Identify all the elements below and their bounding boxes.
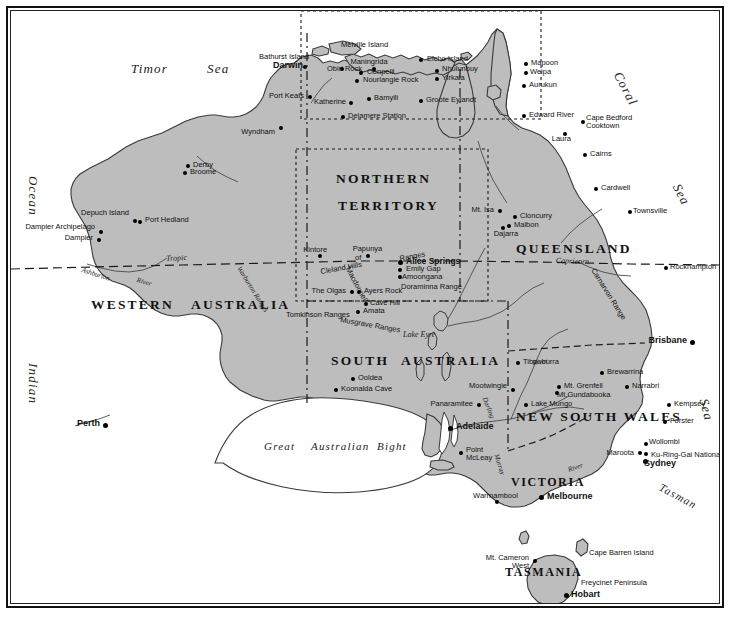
city-dot-nhulunbuy — [435, 69, 439, 73]
city-label-kintore: Kintore — [303, 246, 327, 254]
city-label-perth: Perth — [77, 419, 100, 427]
city-dot-papunya — [366, 254, 370, 258]
island-label-melville: Melville Island — [341, 41, 388, 49]
city-label-nhulunbuy: Nhulunbuy — [442, 65, 478, 73]
city-dot-nourlangie-rock — [355, 79, 359, 83]
city-dot-mt-grenfell — [557, 385, 561, 389]
city-dot-forster — [663, 420, 667, 424]
city-dot-cloncurry — [513, 215, 517, 219]
city-dot-brisbane — [690, 340, 695, 345]
city-dot-perth — [103, 423, 108, 428]
feature-label-great: Great — [264, 440, 295, 452]
city-label-brisbane: Brisbane — [648, 336, 687, 344]
island-label-depuch: Depuch Island — [81, 209, 129, 217]
city-label-bamyili: Bamyili — [374, 94, 398, 102]
city-dot-kintore — [318, 254, 322, 258]
ocean-label-indian: Indian — [25, 363, 41, 404]
island-label-cape-barren: Cape Barren Island — [589, 549, 654, 557]
city-label-adelaide: Adelaide — [456, 422, 494, 430]
city-dot-weipa — [524, 71, 528, 75]
city-label-yirkala: Yirkala — [442, 74, 465, 82]
city-dot-malbon — [507, 224, 511, 228]
city-label-dajarra: Dajarra — [494, 230, 519, 238]
city-dot-port-hedland — [138, 220, 142, 224]
state-label-northern: NORTHERN — [336, 171, 431, 187]
city-label-the-olgas: The Olgas — [311, 287, 346, 295]
city-label-katherine: Katherine — [314, 98, 346, 106]
city-label-brewarrina: Brewarrina — [607, 368, 643, 376]
city-dot-darwin — [303, 65, 307, 69]
state-label-victoria: VICTORIA — [511, 475, 585, 490]
state-label-south: SOUTH — [331, 353, 389, 369]
feature-label-lake-eyre: Lake Eyre — [403, 330, 435, 339]
ocean-label-indian-ocean: Ocean — [25, 176, 41, 216]
city-label-ooldea: Ooldea — [358, 374, 382, 382]
feature-label-tropic: Tropic — [166, 253, 187, 263]
city-label-panaramitee: Panaramitee — [430, 400, 473, 408]
city-dot-panaramitee — [477, 403, 481, 407]
city-label-narrabri: Narrabri — [632, 382, 659, 390]
city-label-mapoon: Mapoon — [531, 59, 558, 67]
city-dot-groote-eylandt — [419, 99, 423, 103]
map-canvas: Timor Sea Ocean Indian Coral Sea Sea Tas… — [11, 11, 719, 603]
city-label-hobart: Hobart — [571, 590, 600, 598]
ocean-label-timor: Timor — [131, 61, 168, 77]
city-dot-townsville — [628, 210, 632, 214]
city-label-mootwingie: Mootwingie — [469, 382, 507, 390]
city-dot-kempsey — [667, 403, 671, 407]
city-label-mt-gundabooka: Mt.Gundabooka — [557, 391, 610, 399]
city-dot-delamere-station — [341, 115, 345, 119]
city-dot-brewarrina — [600, 371, 604, 375]
city-label-aurukun: Aurukun — [529, 81, 557, 89]
city-dot-alice-springs — [398, 260, 403, 265]
city-label-forster: Forster — [670, 417, 694, 425]
city-dot-amata — [356, 310, 360, 314]
city-dot-broome — [183, 171, 187, 175]
feature-label-bight: Bight — [377, 440, 407, 452]
city-dot-ooldea — [351, 377, 355, 381]
city-label-melbourne: Melbourne — [547, 492, 593, 500]
flinders-island — [576, 539, 588, 556]
city-dot-ayers-rock — [357, 290, 361, 294]
groote-eylandt — [487, 85, 501, 100]
city-label-rockhampton: Rockhampton — [670, 263, 716, 271]
city-dot-bamyili — [367, 97, 371, 101]
city-label-cooktown: Cooktown — [586, 122, 619, 130]
city-dot-katherine — [349, 101, 353, 105]
city-label-malbon: Malbon — [514, 221, 539, 229]
city-label-lake-mungo: Lake Mungo — [531, 400, 572, 408]
city-dot-mootwingie — [511, 388, 515, 392]
city-label-papunya: Papunya — [353, 245, 383, 253]
peninsula-label-freycinet: Freycinet Peninsula — [581, 579, 647, 587]
city-dot-cardwell — [594, 187, 598, 191]
city-label-tibooburra: Tibooburra — [523, 358, 559, 366]
state-label-australia-south: AUSTRALIA — [401, 353, 500, 369]
map-screenshot: Timor Sea Ocean Indian Coral Sea Sea Tas… — [0, 0, 736, 625]
feature-label-australian: Australian — [311, 440, 369, 452]
feature-label-capricorn: Capricorn — [556, 256, 590, 266]
city-dot-mt-cameron-west — [533, 559, 537, 563]
city-dot-mt-isa — [498, 209, 502, 213]
bathurst-island — [312, 46, 329, 56]
city-dot-point-mcleay — [459, 451, 463, 455]
city-label-broome: Broome — [190, 168, 216, 176]
feature-label-doraminna-range: Doraminna Range — [401, 283, 462, 291]
city-label-edward-river: Edward River — [529, 111, 574, 119]
city-dot-ku-ring-gai — [644, 452, 648, 456]
city-dot-depuch-island — [133, 219, 137, 223]
cape-york-peninsula — [491, 29, 511, 116]
city-label-obiri-rock: Obiri Rock — [327, 65, 362, 73]
city-dot-cape-bedford — [581, 120, 585, 124]
city-label-cloncurry: Cloncurry — [520, 212, 552, 220]
city-dot-dampier — [97, 238, 101, 242]
state-label-territory: TERRITORY — [338, 198, 439, 214]
city-dot-cairns — [583, 153, 587, 157]
city-label-amoongana: Amoongana — [402, 273, 442, 281]
city-label-nourlangie-rock: Nourlangie Rock — [363, 76, 418, 84]
city-label-dampier: Dampier — [65, 234, 93, 242]
city-label-warrnambool: Warrnambool — [473, 492, 518, 500]
city-dot-warrnambool — [495, 500, 499, 504]
island-label-bathurst: Bathurst Island — [259, 53, 309, 61]
city-dot-adelaide — [448, 426, 453, 431]
city-label-wollombi: Wollombi — [649, 438, 680, 446]
